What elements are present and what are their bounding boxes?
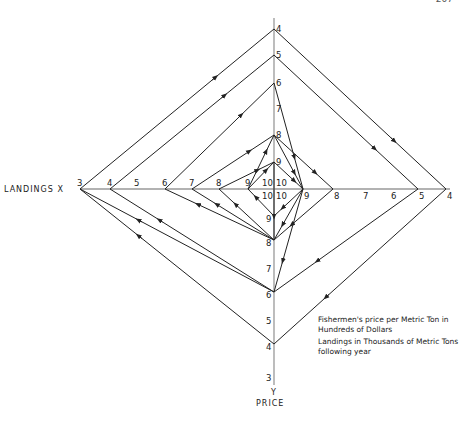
- cobweb-diagram: 3456789987654456789987654310101010 LANDI…: [0, 0, 471, 422]
- arrow-icon: [212, 77, 216, 80]
- x-tick-left: 8: [216, 178, 221, 188]
- cobweb-segment: [274, 55, 418, 189]
- y-tick-bottom: 5: [266, 316, 271, 326]
- arrow-icon: [317, 259, 320, 261]
- arrow-icon: [294, 155, 295, 157]
- arrow-icon: [248, 151, 250, 152]
- legend-landings: Landings in Thousands of Metric Tons fol…: [318, 337, 468, 357]
- x-tick-left: 5: [134, 178, 139, 188]
- x-axis-label: LANDINGS X: [4, 185, 64, 194]
- y-tick-bottom: 8: [266, 238, 271, 248]
- cobweb-segment: [274, 189, 303, 292]
- y-tick-top: 6: [276, 78, 281, 88]
- arrow-icon: [198, 204, 200, 205]
- arrow-icon: [222, 95, 225, 98]
- x-tick-right: 8: [334, 191, 339, 201]
- arrow-icon: [294, 180, 295, 181]
- cobweb-segment: [80, 189, 274, 344]
- legend-price: Fishermen's price per Metric Ton in Hund…: [318, 315, 468, 335]
- x-tick-left: 9: [245, 178, 250, 188]
- arrow-icon: [266, 170, 267, 171]
- cobweb-segment: [165, 189, 274, 240]
- y-tick-top: 4: [276, 24, 281, 34]
- arrow-icon: [326, 294, 329, 297]
- y-axis-label: PRICE: [256, 399, 284, 408]
- arrow-icon: [138, 220, 142, 222]
- arrow-icon: [283, 224, 284, 225]
- x-tick-left: 4: [107, 178, 112, 188]
- x-tick-right: 7: [363, 191, 368, 201]
- arrow-icon: [256, 170, 257, 171]
- arrow-icon: [138, 236, 142, 239]
- y-tick-bottom: 6: [266, 290, 271, 300]
- arrow-icon: [236, 204, 237, 205]
- x-tick-right: 5: [419, 191, 424, 201]
- arrow-icon: [372, 146, 375, 149]
- center-label: 10: [276, 178, 287, 188]
- x-tick-left: 6: [162, 178, 167, 188]
- arrow-icon: [266, 151, 267, 152]
- x-tick-right: 9: [304, 191, 309, 201]
- arrow-icon: [256, 197, 257, 198]
- arrow-icon: [294, 172, 295, 173]
- y-tick-top: 5: [276, 50, 281, 60]
- cobweb-segment: [274, 29, 446, 189]
- center-label: 10: [262, 191, 273, 201]
- y-tick-top: 9: [276, 157, 281, 167]
- center-label: 10: [276, 191, 287, 201]
- arrow-icon: [159, 220, 162, 222]
- arrow-icon: [391, 138, 394, 141]
- cobweb-segment: [110, 189, 274, 292]
- cobweb-segment: [80, 189, 274, 292]
- y-tick-top: 8: [276, 130, 281, 140]
- y-tick-bottom: 3: [266, 373, 271, 383]
- x-tick-left: 3: [77, 178, 82, 188]
- y-tick-bottom: 7: [266, 264, 271, 274]
- x-tick-left: 7: [189, 178, 194, 188]
- cobweb-segment: [110, 55, 274, 189]
- arrow-icon: [283, 259, 284, 261]
- x-tick-right: 4: [447, 191, 452, 201]
- arrow-icon: [283, 207, 284, 208]
- y-tick-top: 7: [276, 104, 281, 114]
- arrow-icon: [217, 204, 219, 205]
- center-label: 10: [262, 178, 273, 188]
- arrow-icon: [239, 115, 241, 117]
- y-tick-bottom: 4: [266, 342, 271, 352]
- x-tick-right: 6: [391, 191, 396, 201]
- y-tick-bottom: 9: [266, 214, 271, 224]
- y-axis-letter: Y: [270, 388, 277, 397]
- cobweb-segment: [274, 189, 418, 292]
- arrow-icon: [314, 172, 315, 173]
- cobweb-segment: [80, 29, 274, 189]
